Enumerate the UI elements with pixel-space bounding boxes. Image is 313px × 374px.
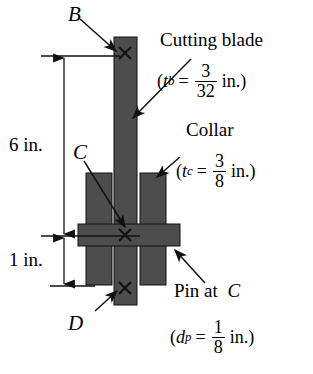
blade-fraction: 3 32 [195, 62, 217, 101]
blade-unit: in. [222, 72, 241, 90]
pin-bar-shape [78, 224, 180, 246]
collar-denominator: 8 [213, 172, 226, 191]
dimension-label-6in: 6 in. [9, 135, 43, 154]
cutting-blade-shape [114, 37, 137, 305]
collar-equals: = [197, 162, 207, 180]
pin-equals: = [195, 328, 205, 346]
pin-close-paren: ) [248, 328, 254, 346]
blade-equals: = [179, 72, 189, 90]
dimension-label-1in: 1 in. [9, 250, 43, 269]
label-collar: Collar [186, 120, 234, 139]
label-point-c: C [73, 142, 87, 163]
collar-numerator: 3 [213, 152, 226, 172]
label-point-b: B [68, 4, 81, 25]
assembly-diagram [0, 0, 313, 374]
blade-subscript: b [168, 75, 174, 88]
collar-fraction: 3 8 [213, 152, 226, 191]
collar-unit: in. [231, 162, 250, 180]
pin-denominator: 8 [212, 338, 225, 357]
blade-close-paren: ) [240, 72, 246, 90]
collar-subscript: c [187, 165, 193, 178]
label-cutting-blade: Cutting blade [160, 30, 263, 49]
pin-name-point: C [228, 280, 241, 301]
label-pin-at-c: Pin at C [174, 281, 240, 300]
blade-denominator: 32 [195, 82, 217, 101]
label-blade-thickness: ( t b = 3 32 in. ) [157, 62, 246, 101]
leader-b [80, 19, 116, 51]
leader-pin [175, 250, 205, 283]
pin-symbol: d [176, 328, 185, 346]
label-pin-diameter: ( d p = 1 8 in. ) [170, 318, 254, 357]
label-point-d: D [68, 313, 83, 334]
label-collar-thickness: ( t c = 3 8 in. ) [176, 152, 255, 191]
collar-close-paren: ) [249, 162, 255, 180]
pin-name: Pin at [174, 280, 218, 301]
pin-numerator: 1 [212, 318, 225, 338]
pin-subscript: p [185, 331, 191, 344]
pin-unit: in. [230, 328, 249, 346]
pin-fraction: 1 8 [212, 318, 225, 357]
blade-numerator: 3 [195, 62, 217, 82]
